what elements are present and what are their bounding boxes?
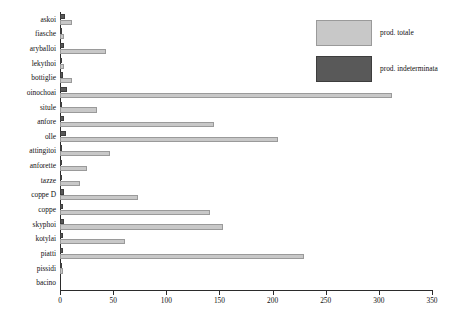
bar-indeterminata-olle bbox=[60, 131, 66, 136]
chart-row: coppe bbox=[60, 202, 432, 217]
bar-totale-attingitoi bbox=[60, 151, 110, 156]
bar-indeterminata-attingitoi bbox=[60, 145, 62, 150]
bar-totale-olle bbox=[60, 137, 278, 142]
bar-indeterminata-pissidi bbox=[60, 263, 62, 268]
bar-indeterminata-coppe bbox=[60, 204, 63, 209]
category-label-bacino: bacino bbox=[36, 279, 56, 286]
category-label-fiasche: fiasche bbox=[35, 30, 56, 37]
category-label-anfore: anfore bbox=[37, 118, 56, 125]
chart-row: oinochoai bbox=[60, 85, 432, 100]
x-tick-label: 50 bbox=[109, 297, 116, 304]
chart-row: piatti bbox=[60, 246, 432, 261]
x-tick-label: 350 bbox=[426, 297, 437, 304]
legend-label-total: prod. totale bbox=[380, 29, 414, 36]
x-tick bbox=[432, 290, 433, 295]
category-label-lekythoi: lekythoi bbox=[32, 60, 56, 67]
bar-totale-kotylai bbox=[60, 239, 125, 244]
x-tick bbox=[113, 290, 114, 295]
bar-totale-tazze bbox=[60, 181, 80, 186]
x-axis-line bbox=[60, 290, 432, 291]
x-tick bbox=[379, 290, 380, 295]
x-tick-label: 250 bbox=[320, 297, 331, 304]
bar-indeterminata-aryballoi bbox=[60, 43, 64, 48]
category-label-oinochoai: oinochoai bbox=[27, 89, 56, 96]
category-label-kotylai: kotylai bbox=[35, 235, 56, 242]
category-label-skyphoi: skyphoi bbox=[33, 221, 56, 228]
category-label-olle: olle bbox=[45, 133, 56, 140]
chart-row: attingitoi bbox=[60, 144, 432, 159]
chart-row: bottiglie bbox=[60, 71, 432, 86]
category-label-anforette: anforette bbox=[30, 162, 56, 169]
chart-row: bacino bbox=[60, 275, 432, 290]
bar-indeterminata-tazze bbox=[60, 175, 62, 180]
bar-totale-bottiglie bbox=[60, 78, 72, 83]
category-label-coppe-d: coppe D bbox=[31, 191, 56, 198]
category-label-attingitoi: attingitoi bbox=[29, 147, 56, 154]
bar-totale-lekythoi bbox=[60, 64, 64, 69]
chart-row: lekythoi bbox=[60, 56, 432, 71]
category-label-askoi: askoi bbox=[40, 16, 56, 23]
bar-totale-fiasche bbox=[60, 34, 64, 39]
chart-row: aryballoi bbox=[60, 41, 432, 56]
category-label-situle: situle bbox=[40, 104, 56, 111]
bar-indeterminata-skyphoi bbox=[60, 219, 64, 224]
plot-area: askoifiaschearyballoilekythoibottiglieoi… bbox=[60, 12, 432, 290]
bar-totale-anfore bbox=[60, 122, 214, 127]
bar-chart: askoifiaschearyballoilekythoibottiglieoi… bbox=[0, 0, 450, 328]
x-tick bbox=[273, 290, 274, 295]
chart-row: coppe D bbox=[60, 188, 432, 203]
category-label-piatti: piatti bbox=[41, 250, 56, 257]
chart-row: situle bbox=[60, 100, 432, 115]
chart-row: olle bbox=[60, 129, 432, 144]
x-tick bbox=[219, 290, 220, 295]
x-tick-label: 150 bbox=[214, 297, 225, 304]
legend-label-indeterminata: prod. indeterminata bbox=[380, 65, 438, 72]
category-label-tazze: tazze bbox=[41, 177, 56, 184]
bar-indeterminata-anforette bbox=[60, 160, 62, 165]
bar-indeterminata-askoi bbox=[60, 14, 65, 19]
category-label-aryballoi: aryballoi bbox=[30, 45, 56, 52]
bar-indeterminata-oinochoai bbox=[60, 87, 67, 92]
bar-indeterminata-bottiglie bbox=[60, 72, 63, 77]
bar-totale-anforette bbox=[60, 166, 87, 171]
x-tick bbox=[60, 290, 61, 295]
bar-totale-oinochoai bbox=[60, 93, 392, 98]
chart-row: askoi bbox=[60, 12, 432, 27]
bar-indeterminata-coppe-d bbox=[60, 189, 64, 194]
chart-row: kotylai bbox=[60, 231, 432, 246]
chart-row: pissidi bbox=[60, 261, 432, 276]
legend-swatch-icon-indeterminata bbox=[316, 56, 372, 82]
bar-totale-askoi bbox=[60, 20, 72, 25]
bar-indeterminata-situle bbox=[60, 102, 62, 107]
bar-totale-piatti bbox=[60, 254, 304, 259]
chart-row: tazze bbox=[60, 173, 432, 188]
category-label-pissidi: pissidi bbox=[37, 265, 56, 272]
chart-row: fiasche bbox=[60, 27, 432, 42]
bar-indeterminata-anfore bbox=[60, 116, 64, 121]
x-tick-label: 200 bbox=[267, 297, 278, 304]
chart-row: skyphoi bbox=[60, 217, 432, 232]
chart-row: anfore bbox=[60, 114, 432, 129]
bar-indeterminata-kotylai bbox=[60, 233, 63, 238]
bar-totale-skyphoi bbox=[60, 224, 223, 229]
bar-indeterminata-piatti bbox=[60, 248, 63, 253]
bar-totale-situle bbox=[60, 107, 97, 112]
x-tick-label: 100 bbox=[161, 297, 172, 304]
bar-totale-pissidi bbox=[60, 268, 63, 273]
bar-indeterminata-fiasche bbox=[60, 28, 62, 33]
x-tick-label: 300 bbox=[373, 297, 384, 304]
legend-swatch-icon-total bbox=[316, 20, 372, 46]
x-tick bbox=[326, 290, 327, 295]
bar-indeterminata-lekythoi bbox=[60, 58, 62, 63]
x-tick-label: 0 bbox=[58, 297, 62, 304]
bar-totale-coppe-d bbox=[60, 195, 138, 200]
x-tick bbox=[166, 290, 167, 295]
chart-row: anforette bbox=[60, 158, 432, 173]
category-label-coppe: coppe bbox=[38, 206, 56, 213]
category-label-bottiglie: bottiglie bbox=[31, 74, 56, 81]
bar-totale-coppe bbox=[60, 210, 210, 215]
bar-totale-aryballoi bbox=[60, 49, 106, 54]
